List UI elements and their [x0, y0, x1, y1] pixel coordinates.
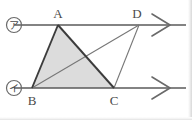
bottom-edge-shadow	[0, 117, 192, 120]
circled-a-marker-label: ア	[9, 20, 19, 31]
vertex-label-d: D	[132, 6, 141, 21]
vertex-label-c: C	[110, 93, 119, 108]
vertex-label-a: A	[53, 6, 63, 21]
geometry-figure: ア イ A D B C	[0, 0, 192, 120]
right-edge-shadow	[188, 0, 192, 120]
circled-i-marker-label: イ	[9, 83, 19, 94]
segment-cd	[114, 25, 139, 88]
vertex-label-b: B	[28, 93, 37, 108]
figure-canvas: ア イ A D B C	[0, 0, 192, 120]
